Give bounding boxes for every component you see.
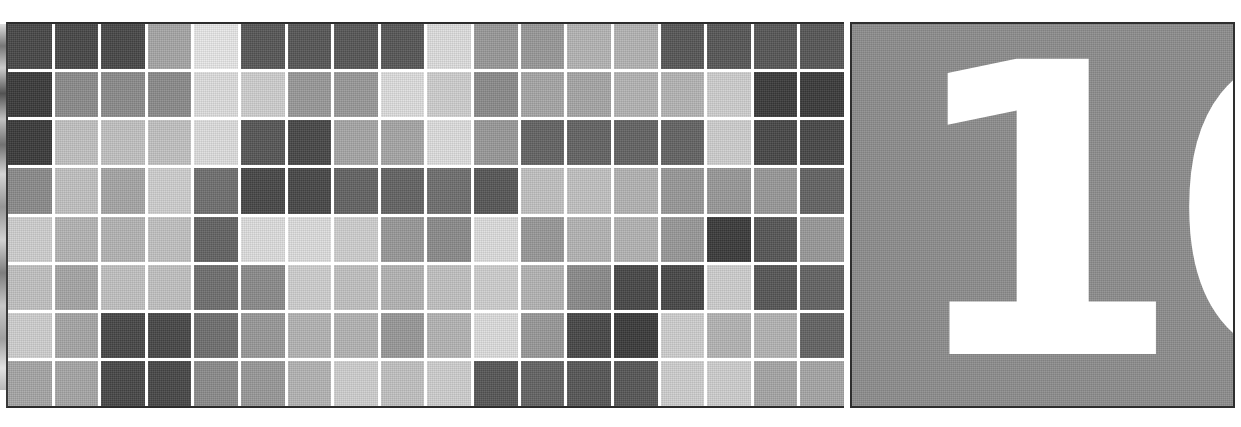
- mosaic-tile: [101, 265, 145, 310]
- mosaic-tile: [800, 168, 844, 213]
- mosaic-tile: [754, 361, 798, 406]
- mosaic-tile: [381, 24, 425, 69]
- mosaic-tile: [800, 120, 844, 165]
- mosaic-tile: [288, 168, 332, 213]
- mosaic-tile: [567, 265, 611, 310]
- mosaic-tile: [381, 361, 425, 406]
- mosaic-tile: [427, 313, 471, 358]
- mosaic-tile: [521, 217, 565, 262]
- mosaic-tile: [661, 72, 705, 117]
- mosaic-tile: [101, 120, 145, 165]
- mosaic-tile: [194, 24, 238, 69]
- mosaic-tile: [194, 265, 238, 310]
- scan-edge-artifact: [0, 24, 6, 390]
- mosaic-tile: [55, 217, 99, 262]
- mosaic-tile: [707, 24, 751, 69]
- mosaic-tile: [800, 72, 844, 117]
- mosaic-tile: [8, 217, 52, 262]
- mosaic-tile: [800, 313, 844, 358]
- mosaic-tile: [754, 265, 798, 310]
- mosaic-tile: [754, 24, 798, 69]
- mosaic-tile: [474, 217, 518, 262]
- mosaic-tile: [241, 72, 285, 117]
- mosaic-tile: [241, 217, 285, 262]
- mosaic-tile: [334, 265, 378, 310]
- mosaic-tile: [241, 265, 285, 310]
- mosaic-tile: [661, 313, 705, 358]
- mosaic-tile: [754, 120, 798, 165]
- mosaic-tile: [567, 313, 611, 358]
- mosaic-tile: [567, 24, 611, 69]
- mosaic-tile: [148, 361, 192, 406]
- chapter-number-text: 10: [902, 57, 1235, 373]
- divider-banner: 10: [6, 22, 1235, 408]
- mosaic-tile: [800, 361, 844, 406]
- mosaic-tile: [288, 72, 332, 117]
- mosaic-tile: [55, 24, 99, 69]
- mosaic-tile: [288, 120, 332, 165]
- mosaic-tile: [661, 265, 705, 310]
- mosaic-tile: [427, 120, 471, 165]
- mosaic-tile: [614, 361, 658, 406]
- mosaic-tile: [427, 361, 471, 406]
- mosaic-tile: [707, 168, 751, 213]
- mosaic-tile: [55, 120, 99, 165]
- mosaic-tile: [427, 168, 471, 213]
- mosaic-tile: [148, 217, 192, 262]
- mosaic-tile: [194, 72, 238, 117]
- mosaic-tile: [288, 265, 332, 310]
- mosaic-tile: [521, 313, 565, 358]
- mosaic-tile: [614, 24, 658, 69]
- mosaic-tile: [754, 217, 798, 262]
- mosaic-tile: [661, 24, 705, 69]
- mosaic-tile: [521, 265, 565, 310]
- mosaic-tile: [148, 265, 192, 310]
- mosaic-tile: [334, 72, 378, 117]
- mosaic-tile: [614, 265, 658, 310]
- mosaic-tile: [8, 313, 52, 358]
- mosaic-tile: [241, 24, 285, 69]
- mosaic-tile: [8, 168, 52, 213]
- mosaic-tile: [521, 361, 565, 406]
- mosaic-tile: [8, 361, 52, 406]
- mosaic-tile: [754, 72, 798, 117]
- mosaic-tile: [148, 168, 192, 213]
- mosaic-tile: [754, 168, 798, 213]
- mosaic-tile: [707, 72, 751, 117]
- mosaic-tile: [474, 120, 518, 165]
- mosaic-tile: [194, 361, 238, 406]
- mosaic-tile: [614, 120, 658, 165]
- mosaic-tile: [334, 120, 378, 165]
- chapter-divider-page: 10: [0, 0, 1241, 427]
- mosaic-tile: [614, 72, 658, 117]
- mosaic-tile: [474, 24, 518, 69]
- mosaic-tile: [567, 361, 611, 406]
- mosaic-tile: [101, 361, 145, 406]
- mosaic-tile: [55, 72, 99, 117]
- mosaic-tile: [661, 217, 705, 262]
- mosaic-tile: [521, 168, 565, 213]
- mosaic-tile: [8, 265, 52, 310]
- mosaic-tile: [101, 313, 145, 358]
- mosaic-tile: [334, 361, 378, 406]
- mosaic-tile: [148, 24, 192, 69]
- mosaic-tile: [800, 24, 844, 69]
- mosaic-tile: [567, 168, 611, 213]
- mosaic-tile: [427, 24, 471, 69]
- mosaic-tile: [241, 120, 285, 165]
- mosaic-tile: [288, 24, 332, 69]
- mosaic-tile: [614, 313, 658, 358]
- mosaic-tile: [381, 168, 425, 213]
- mosaic-tile: [241, 361, 285, 406]
- mosaic-tile: [567, 120, 611, 165]
- mosaic-tile: [661, 361, 705, 406]
- mosaic-tile: [194, 120, 238, 165]
- mosaic-tile: [427, 217, 471, 262]
- mosaic-tile: [381, 217, 425, 262]
- mosaic-tile: [334, 313, 378, 358]
- mosaic-tile: [427, 265, 471, 310]
- mosaic-tile: [707, 313, 751, 358]
- mosaic-tile: [148, 120, 192, 165]
- mosaic-tile: [474, 72, 518, 117]
- mosaic-tile: [474, 313, 518, 358]
